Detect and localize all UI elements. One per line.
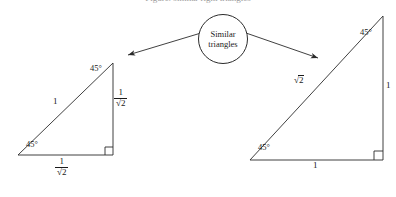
left-vertical-numerator: 1 (114, 88, 127, 97)
arrow-to-right-triangle (246, 33, 318, 58)
arrow-to-left-triangle (128, 33, 201, 55)
right-triangle-angle-bottom-left-label: 45° (258, 143, 270, 152)
radicand: 2 (298, 75, 305, 85)
similar-triangles-figure: Figure: similar right triangles Similar … (0, 0, 396, 197)
left-vertical-denominator: √2 (114, 99, 127, 108)
right-triangle-outline (250, 16, 383, 160)
similar-triangles-node: Similar triangles (198, 14, 248, 64)
right-triangle-hypotenuse-label: √2 (293, 75, 304, 85)
node-line-1: Similar (210, 29, 235, 39)
right-triangle-base-label: 1 (313, 161, 318, 170)
right-triangle-right-angle-marker (374, 151, 383, 160)
right-triangle-vertical-label: 1 (386, 81, 391, 90)
node-line-2: triangles (208, 39, 237, 49)
left-triangle-hypotenuse-label: 1 (53, 97, 58, 106)
radical-sqrt2: √2 (293, 75, 304, 85)
right-triangle-angle-apex-label: 45° (360, 28, 372, 37)
left-base-numerator: 1 (55, 157, 68, 166)
right-triangle-shape (250, 16, 383, 160)
left-base-denominator: √2 (55, 168, 68, 177)
left-triangle-angle-bottom-left-label: 45° (26, 140, 38, 149)
left-triangle-vertical-label: 1 √2 (114, 88, 127, 109)
left-triangle-right-angle-marker (105, 147, 113, 155)
left-triangle-base-label: 1 √2 (55, 157, 68, 178)
left-triangle-angle-apex-label: 45° (90, 64, 102, 73)
